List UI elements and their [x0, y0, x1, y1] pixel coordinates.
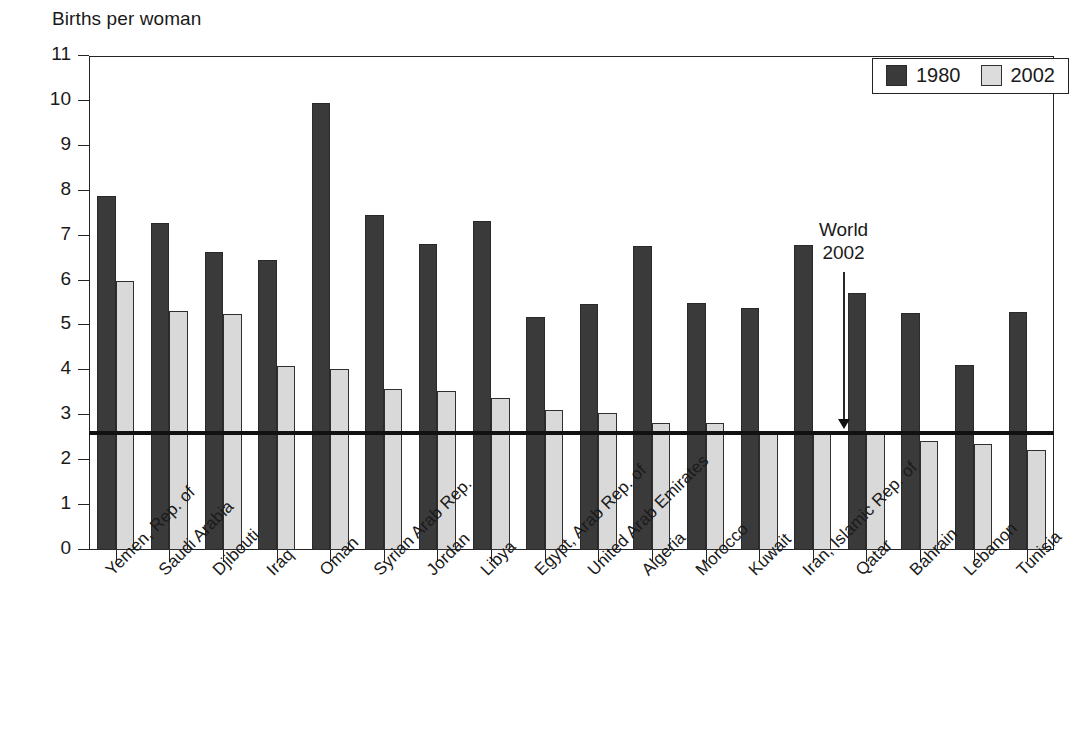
legend-entry: 2002 [981, 64, 1056, 87]
bar-2002 [437, 391, 455, 550]
y-axis-tick-label: 11 [51, 43, 71, 65]
y-axis-tick-mark [78, 549, 89, 550]
fertility-bar-chart: Births per woman 01234567891011 Yemen, R… [0, 0, 1081, 745]
y-axis-tick-mark [78, 369, 89, 370]
x-axis-tick-label: Iraq [263, 545, 298, 580]
y-axis-tick-label: 10 [50, 88, 71, 110]
bar-2002 [491, 398, 509, 550]
bar-1980 [955, 365, 973, 550]
bar-1980 [741, 308, 759, 551]
bar-group [786, 56, 840, 550]
y-axis-tick-label: 9 [60, 133, 71, 155]
bar-group [464, 56, 518, 550]
bar-group [411, 56, 465, 550]
bar-group [196, 56, 250, 550]
y-axis-tick-mark [78, 190, 89, 191]
y-axis-tick-label: 6 [60, 268, 71, 290]
bar-group [572, 56, 626, 550]
y-axis-tick-mark [78, 235, 89, 236]
bar-1980 [473, 221, 491, 550]
y-axis-tick-mark [78, 324, 89, 325]
dark-gray-swatch [886, 65, 907, 86]
bar-2002 [706, 423, 724, 550]
bar-group [143, 56, 197, 550]
annotation-arrow-icon [834, 272, 854, 433]
bar-group [732, 56, 786, 550]
y-axis-tick-mark [78, 414, 89, 415]
bar-group [357, 56, 411, 550]
bar-2002 [974, 444, 992, 550]
y-axis-tick-label: 3 [60, 402, 71, 424]
y-axis-tick-label: 2 [60, 447, 71, 469]
y-axis-tick-label: 7 [60, 223, 71, 245]
bar-group [518, 56, 572, 550]
bar-group [89, 56, 143, 550]
y-axis-tick-mark [78, 145, 89, 146]
y-axis-tick-label: 0 [60, 537, 71, 559]
bar-2002 [277, 366, 295, 550]
y-axis-tick-mark [78, 100, 89, 101]
bar-1980 [687, 303, 705, 550]
y-axis-title: Births per woman [52, 8, 201, 30]
bar-1980 [365, 215, 383, 550]
bar-1980 [97, 196, 115, 550]
bar-group [947, 56, 1001, 550]
world-2002-annotation: World2002 [784, 218, 904, 264]
legend: 19802002 [872, 58, 1069, 94]
legend-label: 2002 [1011, 64, 1056, 87]
bar-2002 [813, 431, 831, 550]
light-gray-swatch [981, 65, 1002, 86]
y-axis-tick-label: 5 [60, 312, 71, 334]
annotation-line-2: 2002 [784, 241, 904, 264]
bar-group [303, 56, 357, 550]
y-axis-tick-mark [78, 459, 89, 460]
y-axis-tick-label: 8 [60, 178, 71, 200]
bar-2002 [330, 369, 348, 550]
bar-1980 [312, 103, 330, 550]
y-axis-tick-mark [78, 55, 89, 56]
annotation-line-1: World [784, 218, 904, 241]
y-axis-tick-label: 1 [60, 492, 71, 514]
y-axis-tick-label: 4 [60, 357, 71, 379]
bar-2002 [920, 441, 938, 550]
legend-entry: 1980 [886, 64, 961, 87]
bar-2002 [759, 431, 777, 550]
bar-1980 [794, 245, 812, 550]
y-axis-tick-mark [78, 280, 89, 281]
y-axis-tick-mark [78, 504, 89, 505]
bar-2002 [116, 281, 134, 550]
bar-1980 [258, 260, 276, 550]
bar-2002 [384, 389, 402, 550]
world-2002-reference-line [89, 431, 1054, 435]
bar-group [250, 56, 304, 550]
bar-group [1000, 56, 1054, 550]
legend-label: 1980 [916, 64, 961, 87]
